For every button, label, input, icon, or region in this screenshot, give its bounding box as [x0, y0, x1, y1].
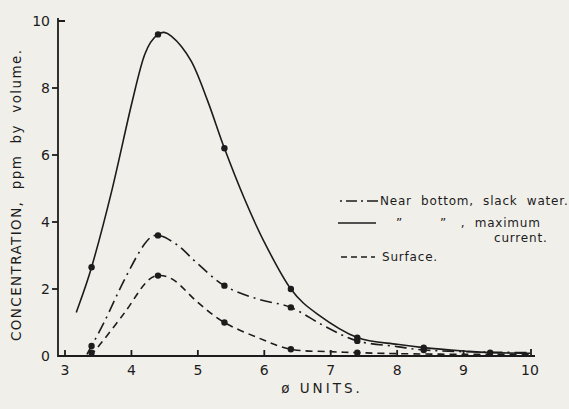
legend-label-maximum-current-line2: current. — [494, 231, 548, 245]
dashed-line-icon — [340, 253, 382, 261]
solid-line-icon — [337, 219, 379, 227]
dashdot-line-icon — [339, 197, 381, 205]
legend-label-maximum-current-line1: ” ” , maximum — [396, 216, 541, 230]
legend-label-surface: Surface. — [382, 250, 438, 264]
legend-label-slack-water: Near bottom, slack water. — [380, 194, 569, 208]
